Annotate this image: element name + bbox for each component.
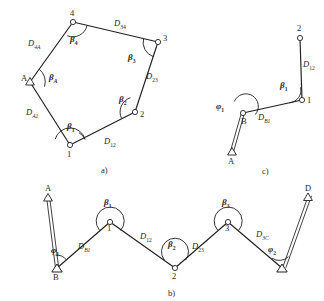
distance-label-A1: DA1 [26,108,38,119]
angle-label-phi1-c: φ1 [216,102,224,113]
station-label-1-a: 1 [67,150,71,159]
station-label-1-b: 1 [107,224,111,233]
station-label-D-b: D [305,184,311,193]
station-marker-B-c [240,110,245,115]
angle-label-beta1-b: β1 [104,198,111,209]
station-label-4-a: 4 [70,9,74,18]
edge-12-b [110,222,175,268]
distance-label-12-a: D12 [104,137,116,148]
station-label-3-b: 3 [225,224,229,233]
distance-label-12-b: D12 [140,232,152,243]
station-label-A-b: A [45,184,51,193]
edge-12 [70,112,135,145]
station-marker-4 [70,19,75,24]
station-label-2-b: 2 [172,272,176,281]
angle-label-beta-3: β3 [128,53,135,64]
distance-label-4A: D4A [28,39,40,50]
angle-label-phi1-b: φ1 [51,246,59,257]
panel-b-connecting-traverse [44,193,313,272]
station-label-B-b: B [53,273,59,282]
station-label-1-c: 1 [307,96,311,105]
station-marker-A-c [228,148,237,156]
angle-label-beta1-c: β1 [280,81,287,92]
caption-panel-c: c) [262,167,269,176]
station-marker-2-c [297,35,302,40]
angle-arc-phi1-c [234,94,258,115]
angle-arc-3 [143,39,153,57]
station-marker-A-b [44,194,53,202]
angle-label-beta-1-a: β1 [67,122,74,133]
station-marker-2-b [172,265,177,270]
angle-label-phi2-b: φ2 [268,245,276,256]
caption-panel-a: a) [101,166,108,175]
angle-label-beta3-b: β3 [222,198,229,209]
angle-label-beta-4: β4 [70,35,77,46]
distance-label-12-c: D12 [303,60,315,71]
angle-label-beta2-b: β2 [168,240,175,251]
station-label-3-a: 3 [163,34,167,43]
distance-label-B1-b: DB1 [78,242,90,253]
edge-CD-inner-b [286,196,312,268]
station-marker-2 [132,109,137,114]
distance-label-3C-b: D3C [256,230,269,241]
distance-label-23-b: D23 [192,242,204,253]
station-label-2-c: 2 [297,24,301,33]
caption-panel-b: b) [168,289,175,298]
angle-arc-A [39,69,45,86]
distance-label-34: D34 [114,19,126,30]
distance-label-23: D23 [146,72,158,83]
angle-label-beta-2: β2 [119,95,126,106]
station-marker-1 [67,142,72,147]
panel-a-closed-traverse [26,19,161,147]
station-label-A-c: A [228,157,234,166]
station-label-2-a: 2 [140,110,144,119]
station-label-B-c: B [241,117,247,126]
station-marker-1-c [299,97,304,102]
panel-c-open-traverse [228,35,305,155]
station-marker-3 [155,39,160,44]
station-label-A-a: A [21,74,27,83]
angle-label-beta-A: βA [49,73,57,84]
edge-CD-outer-b [283,195,309,267]
distance-label-B1-c: DB1 [258,113,270,124]
